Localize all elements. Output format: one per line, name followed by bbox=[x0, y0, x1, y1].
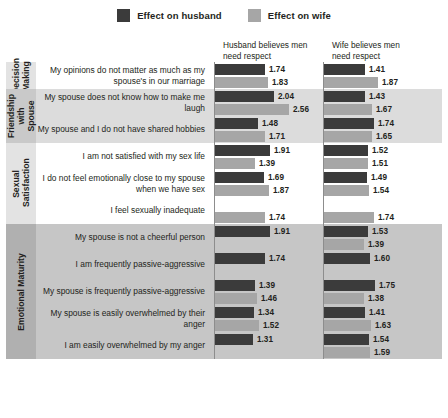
bar-stack: 1.74 bbox=[324, 197, 432, 224]
bar-value-label: 2.04 bbox=[278, 92, 294, 101]
bar-value-label: 1.51 bbox=[372, 159, 388, 168]
panel-header-1: Husband believes menneed respect bbox=[223, 40, 318, 61]
panel-header-line2: need respect bbox=[332, 51, 427, 62]
bar-rect-wife bbox=[215, 185, 269, 196]
bar-rect-husband bbox=[324, 253, 370, 264]
bar-value-label: 1.31 bbox=[257, 335, 273, 344]
bar-stack: 1.741.83 bbox=[215, 62, 323, 89]
bar-rect-wife bbox=[324, 293, 364, 304]
bar-rect-wife bbox=[324, 158, 368, 169]
bar-panel-2: 1.521.51 bbox=[323, 143, 432, 170]
row-label: My spouse and I do not have shared hobbi… bbox=[36, 124, 214, 135]
bar-value-label: 1.53 bbox=[372, 227, 388, 236]
bar-stack: 1.431.67 bbox=[324, 89, 432, 116]
row-label: My spouse is easily overwhelmed by their… bbox=[36, 308, 214, 330]
panel-header-2: Wife believes menneed respect bbox=[332, 40, 427, 61]
chart-row: I feel sexually inadequate1.741.74 bbox=[36, 197, 442, 224]
chart-group: Friendship with SpouseMy spouse does not… bbox=[6, 89, 442, 143]
bar-rect-wife bbox=[215, 320, 259, 331]
bar-panel-2: 1.60 bbox=[323, 251, 432, 278]
bar-stack: 1.60 bbox=[324, 251, 432, 278]
bar-rect-husband bbox=[215, 307, 254, 318]
bar-husband: 1.41 bbox=[324, 64, 432, 75]
bar-value-label: 1.74 bbox=[378, 213, 394, 222]
legend-swatch-husband bbox=[117, 9, 130, 22]
bar-value-label: 1.52 bbox=[263, 321, 279, 330]
row-label: My spouse is not a cheerful person bbox=[36, 232, 214, 243]
bar-rect-husband bbox=[324, 145, 368, 156]
bar-value-label: 1.65 bbox=[376, 132, 392, 141]
bar-stack: 1.751.38 bbox=[324, 278, 432, 305]
bar-wife: 1.83 bbox=[215, 77, 323, 88]
bar-husband: 1.60 bbox=[324, 253, 432, 264]
bar-wife: 1.38 bbox=[324, 293, 432, 304]
bar-panel-2: 1.411.63 bbox=[323, 305, 432, 332]
chart-body: Decision MakingMy opinions do not matter… bbox=[6, 62, 442, 388]
chart-group: Decision MakingMy opinions do not matter… bbox=[6, 62, 442, 89]
bar-panel-2: 1.751.38 bbox=[323, 278, 432, 305]
legend-item-wife: Effect on wife bbox=[248, 9, 331, 22]
bar-husband: 1.53 bbox=[324, 226, 432, 237]
bar-value-label: 1.39 bbox=[259, 281, 275, 290]
row-panels: 1.741.60 bbox=[214, 251, 442, 278]
bar-value-label: 1.91 bbox=[274, 227, 290, 236]
bar-rect-wife bbox=[324, 320, 371, 331]
bar-value-label: 1.63 bbox=[375, 321, 391, 330]
panel-header-line1: Husband believes men bbox=[223, 40, 318, 51]
bar-wife: 1.87 bbox=[324, 77, 432, 88]
bar-rect-wife bbox=[324, 131, 372, 142]
bar-rect-husband bbox=[215, 280, 255, 291]
bar-value-label: 1.39 bbox=[259, 159, 275, 168]
bar-stack: 1.74 bbox=[215, 197, 323, 224]
group-rows: My spouse is not a cheerful person1.911.… bbox=[36, 224, 442, 359]
bar-rect-husband bbox=[215, 334, 253, 345]
bar-wife: 2.56 bbox=[215, 104, 323, 115]
bar-value-label: 1.69 bbox=[268, 173, 284, 182]
row-label: I am frequently passive-aggressive bbox=[36, 259, 214, 270]
bar-husband: 1.75 bbox=[324, 280, 432, 291]
bar-rect-husband bbox=[215, 253, 265, 264]
bar-panel-1: 1.391.46 bbox=[214, 278, 323, 305]
chart-row: My opinions do not matter as much as my … bbox=[36, 62, 442, 89]
bar-wife: 1.67 bbox=[324, 104, 432, 115]
bar-panel-1: 1.691.87 bbox=[214, 170, 323, 197]
bar-value-label: 1.74 bbox=[269, 254, 285, 263]
bar-wife bbox=[215, 347, 323, 358]
bar-panel-2: 1.411.87 bbox=[323, 62, 432, 89]
bar-rect-wife bbox=[215, 293, 257, 304]
bar-husband: 1.39 bbox=[215, 280, 323, 291]
panel-header-line1: Wife believes men bbox=[332, 40, 427, 51]
bar-wife: 1.87 bbox=[215, 185, 323, 196]
chart-row: I am easily overwhelmed by my anger1.311… bbox=[36, 332, 442, 359]
chart-row: My spouse does not know how to make me l… bbox=[36, 89, 442, 116]
bar-value-label: 1.48 bbox=[262, 119, 278, 128]
bar-rect-husband bbox=[215, 172, 264, 183]
bar-rect-wife bbox=[324, 239, 364, 250]
bar-panel-1: 1.74 bbox=[214, 197, 323, 224]
bar-husband: 1.31 bbox=[215, 334, 323, 345]
bar-rect-wife bbox=[324, 77, 378, 88]
chart-legend: Effect on husbandEffect on wife bbox=[0, 9, 448, 22]
bar-stack: 1.491.54 bbox=[324, 170, 432, 197]
bar-wife: 1.52 bbox=[215, 320, 323, 331]
row-panels: 2.042.561.431.67 bbox=[214, 89, 442, 116]
row-panels: 1.741.74 bbox=[214, 197, 442, 224]
row-panels: 1.911.531.39 bbox=[214, 224, 442, 251]
bar-value-label: 1.83 bbox=[272, 78, 288, 87]
bar-wife bbox=[215, 239, 323, 250]
bar-panel-1: 1.741.83 bbox=[214, 62, 323, 89]
panel-headers: Husband believes menneed respectWife bel… bbox=[0, 40, 448, 62]
row-panels: 1.911.391.521.51 bbox=[214, 143, 442, 170]
bar-husband: 1.48 bbox=[215, 118, 323, 129]
bar-value-label: 1.67 bbox=[376, 105, 392, 114]
bar-panel-1: 2.042.56 bbox=[214, 89, 323, 116]
bar-rect-wife bbox=[215, 104, 289, 115]
row-panels: 1.341.521.411.63 bbox=[214, 305, 442, 332]
legend-label-husband: Effect on husband bbox=[137, 10, 222, 21]
bar-rect-wife bbox=[215, 158, 255, 169]
bar-value-label: 1.59 bbox=[374, 348, 390, 357]
bar-rect-wife bbox=[215, 131, 265, 142]
bar-wife: 1.51 bbox=[324, 158, 432, 169]
bar-value-label: 1.74 bbox=[269, 213, 285, 222]
row-label: My spouse is frequently passive-aggressi… bbox=[36, 286, 214, 297]
